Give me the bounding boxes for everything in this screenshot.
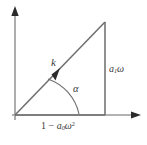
horizontal-side-omega: ω xyxy=(65,120,72,131)
horizontal-side-prefix: 1 − xyxy=(41,120,57,131)
angle-label: α xyxy=(73,84,79,95)
vertical-side-omega: ω xyxy=(117,63,124,74)
phasor-diagram-figure: k α a1ω 1 − a0ω2 xyxy=(0,0,147,145)
hypotenuse-label: k xyxy=(51,57,56,68)
horizontal-side-label: 1 − a0ω2 xyxy=(41,121,75,132)
vertical-side-label: a1ω xyxy=(109,64,124,75)
x-axis-arrowhead-icon xyxy=(131,111,141,118)
hypotenuse-line xyxy=(15,22,105,115)
angle-arc-arrowhead-icon xyxy=(52,68,61,81)
horizontal-side-exponent: 2 xyxy=(72,120,75,127)
y-axis-arrowhead-icon xyxy=(11,6,18,16)
